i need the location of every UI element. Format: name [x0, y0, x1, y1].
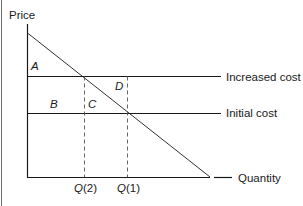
x-axis-label: Quantity — [238, 172, 281, 184]
y-axis-label: Price — [9, 9, 35, 21]
increased-cost-label: Increased cost — [226, 71, 302, 83]
q2-label: Q(2) — [74, 182, 97, 194]
q1-label: Q(1) — [117, 182, 140, 194]
q1-index: (1) — [126, 182, 140, 194]
q2-letter: Q — [74, 182, 83, 194]
q2-index: (2) — [83, 182, 97, 194]
q1-letter: Q — [117, 182, 126, 194]
region-c-label: C — [88, 98, 97, 110]
region-b-label: B — [50, 98, 58, 110]
initial-cost-label: Initial cost — [226, 107, 278, 119]
cost-increase-diagram: Price Quantity Increased cost Initial co… — [0, 0, 303, 206]
region-a-label: A — [30, 60, 39, 72]
region-d-label: D — [115, 80, 123, 92]
